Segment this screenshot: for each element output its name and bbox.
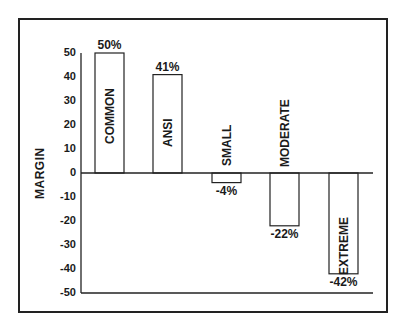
category-label: ANSI [161, 118, 175, 147]
y-tick-label: 20 [46, 118, 76, 130]
value-label: -4% [207, 184, 247, 198]
category-label: SMALL [220, 125, 234, 166]
y-tick-label: -20 [46, 214, 76, 226]
y-tick-label: -40 [46, 262, 76, 274]
y-tick-label: -50 [46, 286, 76, 298]
y-tick-label: 10 [46, 142, 76, 154]
bar-small [212, 173, 241, 183]
y-tick-label: 30 [46, 94, 76, 106]
y-tick-label: -30 [46, 238, 76, 250]
bar-moderate [270, 173, 299, 226]
value-label: -42% [324, 275, 364, 289]
category-label: MODERATE [278, 99, 292, 167]
y-tick-label: 40 [46, 70, 76, 82]
category-label: COMMON [103, 88, 117, 144]
category-label: EXTREME [337, 217, 351, 275]
y-tick-label: -10 [46, 190, 76, 202]
value-label: 50% [90, 38, 130, 52]
y-axis-label: MARGIN [33, 147, 47, 199]
y-tick-label: 0 [46, 166, 76, 178]
value-label: 41% [148, 60, 188, 74]
y-tick-label: 50 [46, 46, 76, 58]
value-label: -22% [265, 227, 305, 241]
